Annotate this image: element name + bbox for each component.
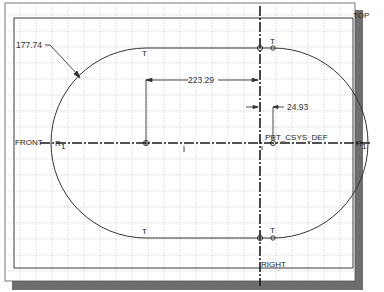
radius-mark-left-sub: 1 (61, 142, 66, 151)
datum-label-right[interactable]: RIGHT (261, 260, 286, 269)
tangent-mark-bottom-right: T (270, 226, 275, 235)
tangent-mark-top-right: T (270, 37, 275, 46)
datum-label-top[interactable]: TOP (353, 11, 369, 20)
dimension-center-distance-value[interactable]: 223.29 (188, 75, 214, 85)
dimension-radius-value[interactable]: 177.74 (16, 40, 42, 50)
sketch-canvas[interactable]: 223.29 24.93 177.74 T T T T R 1 R 1 TOP … (0, 0, 384, 292)
csys-label[interactable]: PRT_CSYS_DEF (265, 133, 328, 142)
dimension-offset-value[interactable]: 24.93 (287, 102, 309, 112)
tangent-mark-top-left: T (142, 49, 147, 58)
datum-label-front[interactable]: FRONT (15, 138, 43, 147)
tangent-mark-bottom-left: T (142, 227, 147, 236)
radius-mark-right-sub: 1 (362, 142, 367, 151)
